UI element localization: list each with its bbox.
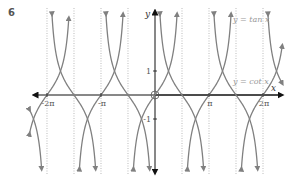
x-tick-label: -π	[98, 99, 106, 108]
tan-cot-graph: -2π-ππ2π1-1 y = tan x y = cot x x y	[0, 0, 285, 178]
x-tick-label: π	[207, 99, 212, 108]
cot-branch	[30, 110, 42, 169]
x-tick-label: 2π	[259, 99, 269, 108]
legend-tan-label: y = tan x	[232, 15, 270, 24]
x-axis-label: x	[271, 83, 276, 93]
x-tick-label: -2π	[41, 99, 54, 108]
y-tick-label: 1	[146, 67, 151, 76]
y-tick-label: -1	[143, 115, 151, 124]
y-axis-label: y	[144, 9, 151, 19]
legend-cot-label: y = cot x	[232, 77, 269, 86]
curves	[30, 14, 283, 169]
